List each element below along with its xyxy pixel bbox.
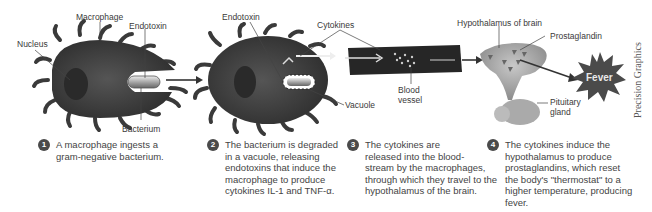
label-hypothalamus: Hypothalamus of brain [457,19,542,28]
step-text: The bacterium is degraded in a vacuole, … [225,139,338,197]
label-endotoxin-2: Endotoxin [222,13,260,22]
label-endotoxin-1: Endotoxin [129,22,167,31]
label-nucleus: Nucleus [17,40,48,49]
step-text: The cytokines induce the hypothalamus to… [505,139,632,208]
label-fever: Fever [586,72,613,83]
step-1: 1 A macrophage ingests a gram-negative b… [38,139,198,169]
nucleus-shape [64,68,88,100]
label-pituitary-1: Pituitary [550,98,581,107]
step-number-badge: 4 [487,139,499,151]
bacterium-shape [128,76,160,88]
label-blood-vessel-1: Blood [398,86,420,95]
label-blood-vessel-2: vessel [398,96,422,105]
label-pituitary-2: gland [550,108,571,117]
step-text: A macrophage ingests a gram-negative bac… [56,139,164,162]
step-text: The cytokines are released into the bloo… [365,139,497,197]
hypothalamus-shape [480,43,547,125]
step-4: 4 The cytokines induce the hypothalamus … [487,139,652,211]
label-cytokines: Cytokines [317,21,354,30]
blood-vessel [345,45,462,75]
step-number-badge: 3 [347,139,359,151]
macrophage-1 [34,21,186,130]
label-bacterium: Bacterium [122,125,160,134]
macrophage-2 [195,24,336,134]
step-number-badge: 1 [38,139,50,151]
step-2: 2 The bacterium is degraded in a vacuole… [207,139,357,199]
label-macrophage: Macrophage [76,13,123,22]
label-prostaglandin: Prostaglandin [550,32,602,41]
credit-text: Precision Graphics [632,42,643,118]
label-vacuole: Vacuole [345,101,375,110]
step-3: 3 The cytokines are released into the bl… [347,139,507,199]
step-number-badge: 2 [207,139,219,151]
